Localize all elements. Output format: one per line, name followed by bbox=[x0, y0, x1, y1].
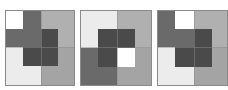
panel-3 bbox=[157, 10, 228, 86]
horizontal-divider bbox=[81, 47, 151, 48]
band-dark-gray bbox=[158, 29, 194, 47]
horizontal-divider bbox=[6, 47, 74, 48]
vertical-divider bbox=[117, 11, 118, 85]
vertical-divider bbox=[41, 11, 42, 85]
top-center-white bbox=[175, 11, 194, 29]
panel-2 bbox=[80, 10, 152, 86]
panel-1 bbox=[5, 10, 75, 86]
vertical-divider bbox=[194, 11, 195, 85]
center-white bbox=[117, 48, 135, 67]
top-left-white bbox=[6, 11, 23, 29]
band-dark-gray bbox=[6, 29, 41, 47]
horizontal-divider bbox=[158, 47, 227, 48]
